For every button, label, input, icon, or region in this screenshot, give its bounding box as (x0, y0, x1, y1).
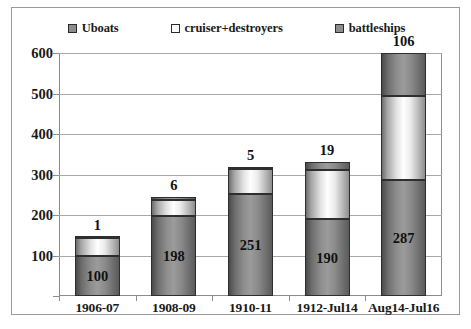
bar-segment-uboats-1906-07[interactable]: 100 (75, 256, 120, 297)
bar-segment-battleships-1910-11[interactable] (228, 167, 273, 169)
y-axis-label-600: 600 (13, 45, 53, 62)
bar-group-1912-Jul14[interactable]: 19019 (305, 53, 350, 296)
x-axis-label-1912-Jul14: 1912-Jul14 (289, 300, 366, 316)
bar-segment-cruiser-destroyers-1910-11[interactable] (228, 169, 273, 194)
y-tick-300 (53, 175, 59, 176)
bar-top-label-1908-09: 6 (151, 177, 196, 194)
y-axis-label-200: 200 (13, 207, 53, 224)
bar-top-label-Aug14-Jul16: 106 (381, 33, 426, 50)
bar-group-1908-09[interactable]: 1986 (151, 53, 196, 296)
bar-value-label-1912-Jul14: 190 (306, 249, 349, 266)
y-tick-200 (53, 215, 59, 216)
plot-area: 10011986251519019287106 (59, 53, 442, 296)
bar-group-1910-11[interactable]: 2515 (228, 53, 273, 296)
y-tick-600 (53, 53, 59, 54)
bar-value-label-1910-11: 251 (229, 237, 272, 254)
bar-segment-battleships-1908-09[interactable] (151, 197, 196, 199)
y-tick-500 (53, 94, 59, 95)
y-axis-label-100: 100 (13, 247, 53, 264)
y-axis-labels: 100200300400500600 (12, 53, 53, 296)
legend-swatch-icon (68, 24, 77, 33)
legend-item-uboats[interactable]: Uboats (68, 21, 119, 36)
y-axis-label-300: 300 (13, 166, 53, 183)
x-axis-labels: 1906-071908-091910-111912-Jul14Aug14-Jul… (59, 300, 442, 322)
x-axis-label-Aug14-Jul16: Aug14-Jul16 (365, 300, 442, 316)
bar-value-label-1906-07: 100 (76, 267, 119, 284)
legend-swatch-icon (171, 24, 180, 33)
bar-segment-battleships-1912-Jul14[interactable] (305, 162, 350, 170)
x-axis-label-1906-07: 1906-07 (59, 300, 136, 316)
x-axis-label-1908-09: 1908-09 (136, 300, 213, 316)
y-axis-label-500: 500 (13, 85, 53, 102)
bar-segment-battleships-1906-07[interactable] (75, 236, 120, 238)
chart-frame: Uboats cruiser+destroyers battleships 10… (11, 7, 460, 315)
bar-segment-cruiser-destroyers-Aug14-Jul16[interactable] (381, 96, 426, 180)
bar-segment-uboats-1912-Jul14[interactable]: 190 (305, 219, 350, 296)
legend-item-cruiser-destroyers[interactable]: cruiser+destroyers (171, 21, 283, 36)
legend-label-cruiser-destroyers: cruiser+destroyers (185, 21, 283, 36)
bar-segment-cruiser-destroyers-1908-09[interactable] (151, 200, 196, 216)
bar-top-label-1912-Jul14: 19 (305, 142, 350, 159)
bar-group-Aug14-Jul16[interactable]: 287106 (381, 53, 426, 296)
bar-value-label-Aug14-Jul16: 287 (382, 229, 425, 246)
bar-top-label-1910-11: 5 (228, 147, 273, 164)
y-tick-100 (53, 256, 59, 257)
bar-value-label-1908-09: 198 (152, 247, 195, 264)
bar-segment-cruiser-destroyers-1906-07[interactable] (75, 238, 120, 256)
y-tick-400 (53, 134, 59, 135)
legend-label-uboats: Uboats (82, 21, 119, 36)
bar-group-1906-07[interactable]: 1001 (75, 53, 120, 296)
x-axis-label-1910-11: 1910-11 (212, 300, 289, 316)
bar-segment-uboats-1908-09[interactable]: 198 (151, 216, 196, 296)
y-axis-label-400: 400 (13, 126, 53, 143)
legend-swatch-icon (335, 24, 344, 33)
bar-top-label-1906-07: 1 (75, 217, 120, 234)
bar-segment-cruiser-destroyers-1912-Jul14[interactable] (305, 170, 350, 219)
bar-segment-battleships-Aug14-Jul16[interactable] (381, 53, 426, 96)
bar-segment-uboats-1910-11[interactable]: 251 (228, 194, 273, 296)
bar-segment-uboats-Aug14-Jul16[interactable]: 287 (381, 180, 426, 296)
